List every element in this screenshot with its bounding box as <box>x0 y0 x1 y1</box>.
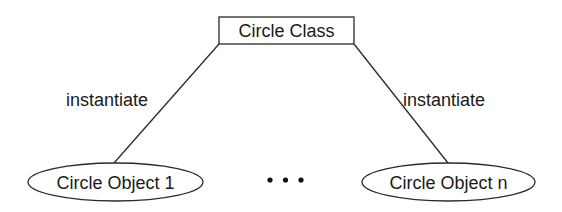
class-node-label: Circle Class <box>238 21 334 41</box>
class-instantiation-diagram: instantiate instantiate Circle Class Cir… <box>0 0 562 212</box>
object-node-n: Circle Object n <box>362 163 535 201</box>
ellipsis-dot <box>267 177 272 182</box>
ellipsis-dots <box>267 177 303 182</box>
edge-label-right: instantiate <box>403 90 485 110</box>
ellipsis-dot <box>298 177 303 182</box>
class-node: Circle Class <box>219 17 354 44</box>
edge-label-left: instantiate <box>66 90 148 110</box>
ellipsis-dot <box>283 177 288 182</box>
object-node-n-label: Circle Object n <box>389 173 507 193</box>
object-node-1: Circle Object 1 <box>28 163 203 201</box>
object-node-1-label: Circle Object 1 <box>56 173 174 193</box>
